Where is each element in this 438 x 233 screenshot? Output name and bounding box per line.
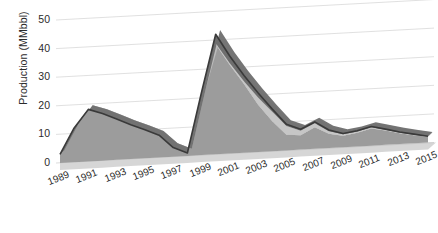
- chart-area-bands: [60, 30, 432, 163]
- chart-container: Production (MMbbl) 01020304050 198919911…: [0, 0, 438, 233]
- area-band-1: [60, 44, 428, 163]
- area-chart-svg: [0, 0, 438, 233]
- y-tick-label: 40: [24, 42, 50, 54]
- y-tick-label: 30: [24, 70, 50, 82]
- y-tick-label: 0: [24, 156, 50, 168]
- y-tick-label: 10: [24, 127, 50, 139]
- y-tick-label: 20: [24, 99, 50, 111]
- y-tick-label: 50: [24, 13, 50, 25]
